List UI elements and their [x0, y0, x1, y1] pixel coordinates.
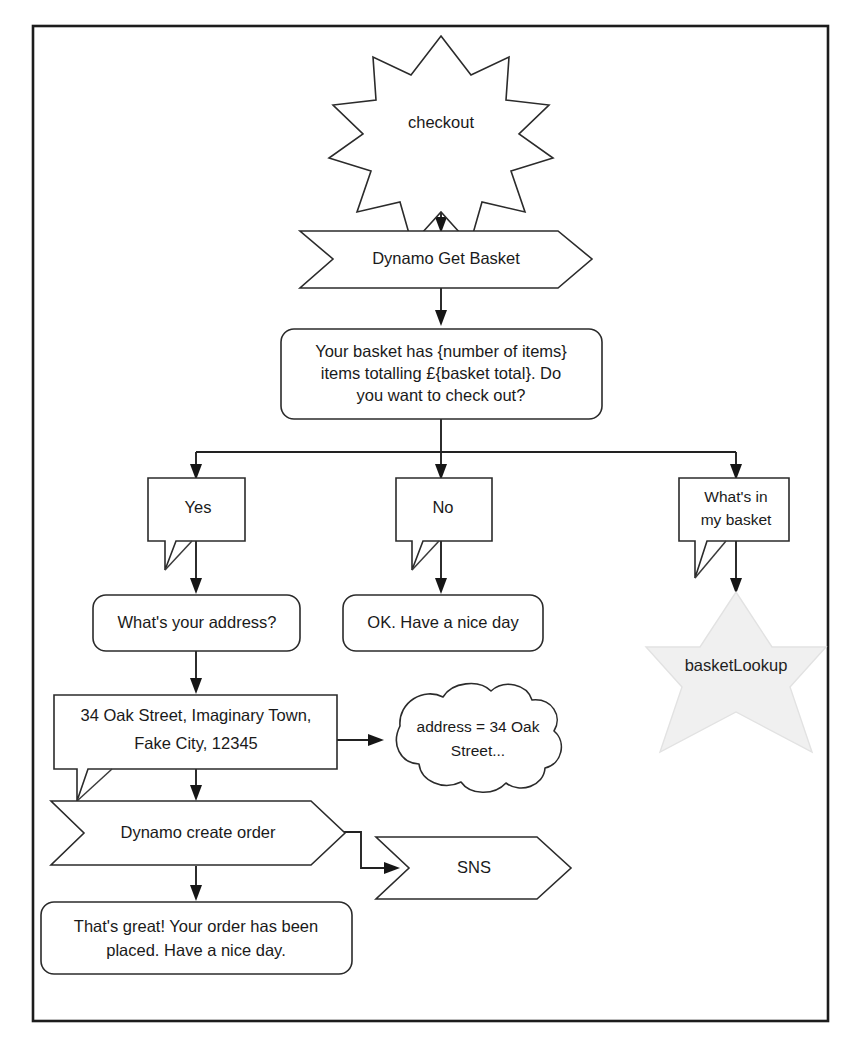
edge-address-question-to-answer [190, 651, 202, 694]
node-basket-prompt[interactable]: Your basket has {number of items} items … [281, 329, 602, 419]
node-no-label: No [432, 498, 453, 516]
node-yes-label: Yes [185, 498, 212, 516]
edge-create-order-to-confirmation [190, 866, 202, 901]
flowchart-svg: checkout Dynamo Get Basket Your basket h… [0, 0, 851, 1052]
edge-no-to-goodbye [435, 541, 447, 594]
node-whats-your-address[interactable]: What's your address? [93, 595, 300, 651]
edge-answer-to-variable [337, 734, 384, 746]
node-basket-lookup[interactable]: basketLookup [646, 592, 826, 752]
node-basket-lookup-label: basketLookup [685, 656, 788, 674]
node-whats-in-my-basket-line-2: my basket [701, 511, 772, 528]
node-order-placed[interactable]: That's great! Your order has been placed… [41, 902, 352, 974]
node-order-placed-line-2: placed. Have a nice day. [106, 941, 285, 959]
node-dynamo-get-basket[interactable]: Dynamo Get Basket [300, 231, 592, 288]
edge-dynamo-get-basket-to-prompt [435, 288, 447, 326]
node-dynamo-create-order-label: Dynamo create order [121, 823, 276, 841]
node-sns[interactable]: SNS [376, 837, 571, 899]
node-ok-have-a-nice-day-label: OK. Have a nice day [367, 613, 519, 631]
node-ok-have-a-nice-day[interactable]: OK. Have a nice day [343, 595, 543, 651]
edge-prompt-branch-bus [190, 419, 742, 480]
node-address-variable-line-2: Street... [451, 742, 505, 759]
node-dynamo-create-order[interactable]: Dynamo create order [51, 801, 345, 865]
edge-answer-to-create-order [190, 769, 202, 801]
node-no[interactable]: No [396, 478, 492, 570]
node-address-answer-line-1: 34 Oak Street, Imaginary Town, [81, 706, 312, 724]
node-basket-prompt-line-1: Your basket has {number of items} [315, 342, 567, 360]
edge-basket-question-to-lookup [730, 541, 742, 594]
node-whats-in-my-basket[interactable]: What's in my basket [679, 478, 789, 578]
edge-yes-to-address-question [190, 541, 202, 594]
node-checkout-label: checkout [408, 113, 474, 131]
node-sns-label: SNS [457, 858, 491, 876]
node-address-variable-line-1: address = 34 Oak [417, 718, 540, 735]
node-address-answer-line-2: Fake City, 12345 [134, 734, 258, 752]
node-basket-prompt-line-2: items totalling £{basket total}. Do [321, 364, 561, 382]
flowchart-canvas: checkout Dynamo Get Basket Your basket h… [0, 0, 851, 1052]
node-whats-in-my-basket-line-1: What's in [704, 488, 767, 505]
node-whats-your-address-label: What's your address? [117, 613, 276, 631]
node-basket-prompt-line-3: you want to check out? [357, 386, 526, 404]
node-address-variable[interactable]: address = 34 Oak Street... [396, 684, 561, 793]
node-checkout[interactable]: checkout [329, 36, 553, 244]
node-order-placed-line-1: That's great! Your order has been [74, 917, 318, 935]
node-dynamo-get-basket-label: Dynamo Get Basket [372, 249, 520, 267]
